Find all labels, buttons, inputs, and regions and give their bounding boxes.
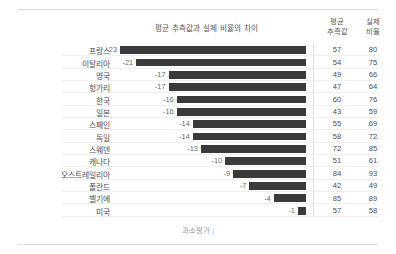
chart-row: 캐나다-105161 <box>0 155 396 167</box>
axis-annotation: 과소평가| <box>0 224 396 235</box>
bar-zone: -9 <box>116 167 306 179</box>
country-label: 일본 <box>8 107 110 118</box>
bar <box>120 46 306 54</box>
bar-value-label: -23 <box>106 45 117 54</box>
bar-zone: -7 <box>116 180 306 192</box>
bar-value-label: -9 <box>224 169 231 178</box>
average-guess-value: 42 <box>322 181 352 190</box>
bar-value-label: -17 <box>155 82 166 91</box>
average-guess-value: 60 <box>322 95 352 104</box>
bar <box>177 96 306 104</box>
actual-ratio-value: 80 <box>358 45 388 54</box>
chart-row: 일본-164359 <box>0 106 396 118</box>
country-label: 오스트레일리아 <box>8 169 110 180</box>
bar <box>233 170 306 178</box>
actual-ratio-value: 66 <box>358 70 388 79</box>
bar-zone: -17 <box>116 81 306 93</box>
chart-row: 영국-174966 <box>0 69 396 81</box>
bar-zone: -14 <box>116 130 306 142</box>
bar <box>274 194 306 202</box>
axis-tick-icon: | <box>213 226 215 235</box>
country-label: 헝가리 <box>8 82 110 93</box>
actual-ratio-value: 69 <box>358 119 388 128</box>
bar <box>193 133 306 141</box>
country-label: 프랑스 <box>8 45 110 56</box>
axis-annotation-label: 과소평가 <box>182 226 210 235</box>
bar <box>249 182 306 190</box>
chart-row: 벨기에-48589 <box>0 192 396 204</box>
bar <box>298 207 306 215</box>
country-label: 벨기에 <box>8 193 110 204</box>
country-label: 이탈리아 <box>8 58 110 69</box>
country-label: 스웨덴 <box>8 144 110 155</box>
bar-value-label: -21 <box>123 58 134 67</box>
bar-value-label: -14 <box>179 119 190 128</box>
actual-ratio-value: 85 <box>358 144 388 153</box>
average-guess-value: 55 <box>322 119 352 128</box>
country-label: 미국 <box>8 206 110 217</box>
country-label: 폴란드 <box>8 181 110 192</box>
bar-zone: -16 <box>116 106 306 118</box>
average-guess-value: 54 <box>322 58 352 67</box>
column-header-actual-ratio-line2: 비율 <box>358 27 388 37</box>
chart-row: 독일-145872 <box>0 130 396 142</box>
chart-row: 이탈리아-215475 <box>0 56 396 68</box>
bar <box>136 59 306 67</box>
chart-row: 프랑스-235780 <box>0 44 396 56</box>
country-label: 캐나다 <box>8 156 110 167</box>
chart-row: 한국-166076 <box>0 93 396 105</box>
bar-value-label: -13 <box>187 144 198 153</box>
chart-row: 헝가리-174764 <box>0 81 396 93</box>
bar <box>193 120 306 128</box>
actual-ratio-value: 76 <box>358 95 388 104</box>
bar-zone: -21 <box>116 56 306 68</box>
column-header-average-guess: 평균 추측값 <box>322 17 352 36</box>
average-guess-value: 72 <box>322 144 352 153</box>
average-guess-value: 43 <box>322 107 352 116</box>
chart-title: 평균 추측값과 실제 비율의 차이 <box>104 22 309 33</box>
bar-value-label: -16 <box>163 107 174 116</box>
bar-zone: -14 <box>116 118 306 130</box>
average-guess-value: 85 <box>322 194 352 203</box>
average-guess-value: 51 <box>322 156 352 165</box>
bar-value-label: -1 <box>288 206 295 215</box>
chart-row: 스페인-145569 <box>0 118 396 130</box>
bar-value-label: -14 <box>179 132 190 141</box>
column-header-average-guess-line1: 평균 <box>322 17 352 27</box>
country-label: 스페인 <box>8 119 110 130</box>
chart-row: 폴란드-74249 <box>0 180 396 192</box>
average-guess-value: 57 <box>322 45 352 54</box>
actual-ratio-value: 61 <box>358 156 388 165</box>
country-label: 영국 <box>8 70 110 81</box>
bar-zone: -13 <box>116 143 306 155</box>
bar-value-label: -7 <box>240 181 247 190</box>
column-header-actual-ratio: 실제 비율 <box>358 17 388 36</box>
average-guess-value: 47 <box>322 82 352 91</box>
actual-ratio-value: 75 <box>358 58 388 67</box>
bar <box>169 71 307 79</box>
country-label: 독일 <box>8 132 110 143</box>
bar <box>225 157 306 165</box>
actual-ratio-value: 59 <box>358 107 388 116</box>
column-header-average-guess-line2: 추측값 <box>322 27 352 37</box>
top-divider <box>18 9 378 10</box>
bar <box>201 145 306 153</box>
actual-ratio-value: 89 <box>358 194 388 203</box>
chart-row: 미국-15758 <box>0 204 396 216</box>
bar-value-label: -17 <box>155 70 166 79</box>
actual-ratio-value: 58 <box>358 206 388 215</box>
bar-value-label: -10 <box>211 156 222 165</box>
bar <box>177 108 306 116</box>
actual-ratio-value: 49 <box>358 181 388 190</box>
chart-row: 스웨덴-137285 <box>0 143 396 155</box>
actual-ratio-value: 72 <box>358 132 388 141</box>
chart-card: 평균 추측값과 실제 비율의 차이 평균 추측값 실제 비율 프랑스-23578… <box>0 0 396 254</box>
average-guess-value: 58 <box>322 132 352 141</box>
bar <box>169 83 307 91</box>
average-guess-value: 84 <box>322 169 352 178</box>
bar-zone: -4 <box>116 192 306 204</box>
bar-zone: -1 <box>116 204 306 216</box>
chart-rows: 프랑스-235780이탈리아-215475영국-174966헝가리-174764… <box>0 44 396 217</box>
bar-zone: -16 <box>116 93 306 105</box>
bar-zone: -17 <box>116 69 306 81</box>
